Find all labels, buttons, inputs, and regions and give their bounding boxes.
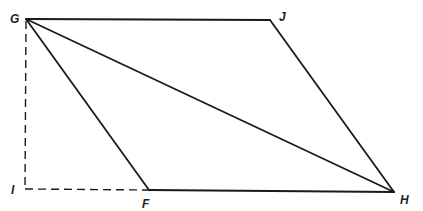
edge-IF-dashed-extension — [25, 189, 149, 190]
vertex-label-F: F — [142, 197, 150, 211]
vertex-label-H: H — [400, 193, 409, 207]
edge-GH-diagonal — [26, 19, 394, 192]
edge-GI-dashed-height — [25, 21, 26, 189]
edge-GJ — [26, 19, 270, 20]
vertex-label-J: J — [279, 10, 286, 24]
edge-GF — [26, 19, 149, 190]
vertex-label-I: I — [11, 183, 15, 197]
edge-JH — [270, 20, 394, 192]
parallelogram-diagram: G J H F I — [0, 0, 423, 211]
edge-FH — [149, 190, 394, 192]
vertex-label-G: G — [10, 12, 19, 26]
